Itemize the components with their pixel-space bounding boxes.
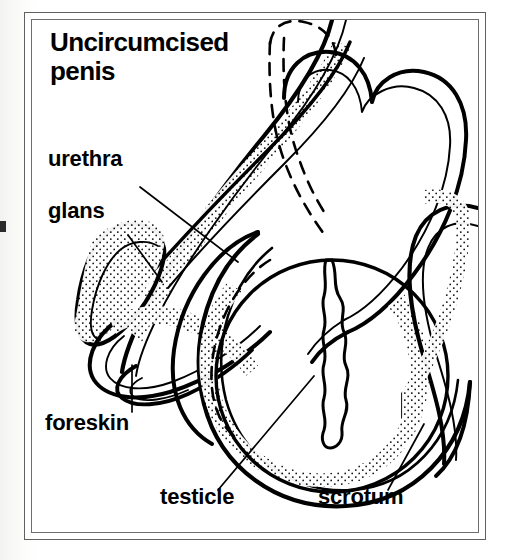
figure-page: Uncircumcised penis urethra glans foresk… bbox=[0, 0, 510, 560]
figure-title-line-1: Uncircumcised bbox=[50, 28, 229, 57]
label-glans: glans bbox=[48, 199, 104, 224]
label-testicle: testicle bbox=[160, 485, 234, 510]
epididymis-outline bbox=[322, 260, 348, 448]
label-urethra: urethra bbox=[48, 147, 122, 172]
anatomy-illustration bbox=[32, 20, 478, 532]
figure-title: Uncircumcised penis bbox=[50, 28, 229, 86]
scan-edge-artifact bbox=[0, 221, 6, 232]
figure-title-line-2: penis bbox=[50, 57, 229, 86]
cord-descent-outer bbox=[312, 332, 348, 362]
anatomy-line-art bbox=[32, 20, 478, 532]
label-foreskin: foreskin bbox=[45, 411, 129, 436]
label-scrotum: scrotum bbox=[318, 485, 403, 510]
